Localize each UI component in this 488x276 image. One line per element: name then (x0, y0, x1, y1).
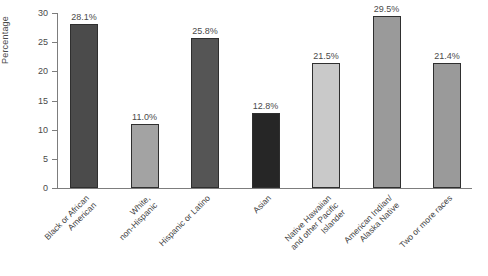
bar-value-label-5: 29.5% (365, 4, 409, 14)
bar-2 (191, 38, 219, 189)
bar-1 (131, 124, 159, 188)
bar-0 (70, 24, 98, 188)
y-tick-25 (52, 42, 58, 43)
y-tick-10 (52, 130, 58, 131)
y-tick-label-25: 25 (22, 38, 48, 47)
y-tick-30 (52, 13, 58, 14)
bar-6 (433, 63, 461, 188)
bar-chart: Percentage 051015202530 28.1%11.0%25.8%1… (0, 0, 488, 276)
bar-5 (373, 16, 401, 188)
y-tick-20 (52, 71, 58, 72)
bar-value-label-1: 11.0% (123, 112, 167, 122)
bar-value-label-4: 21.5% (304, 51, 348, 61)
y-tick-label-20: 20 (22, 67, 48, 76)
y-tick-label-0: 0 (22, 184, 48, 193)
x-axis-line (57, 188, 472, 189)
y-tick-0 (52, 188, 58, 189)
y-tick-label-5: 5 (22, 155, 48, 164)
bar-value-label-2: 25.8% (183, 26, 227, 36)
bar-3 (252, 113, 280, 188)
y-axis-title: Percentage (0, 0, 14, 80)
y-tick-label-15: 15 (22, 97, 48, 106)
y-tick-5 (52, 159, 58, 160)
y-tick-label-10: 10 (22, 126, 48, 135)
bar-value-label-6: 21.4% (425, 51, 469, 61)
bar-4 (312, 63, 340, 188)
y-tick-15 (52, 101, 58, 102)
y-tick-label-30: 30 (22, 9, 48, 18)
bar-value-label-3: 12.8% (244, 101, 288, 111)
bar-value-label-0: 28.1% (62, 12, 106, 22)
